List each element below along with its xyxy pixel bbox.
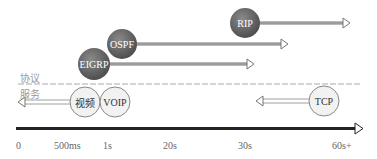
timeout-diagram: 协议 服务 RIP OSPF EIGRP 视频 VOIP TCP 0 500ms…	[0, 0, 377, 159]
ospf-label: OSPF	[110, 39, 134, 50]
eigrp-label: EIGRP	[80, 59, 109, 70]
tick-30s: 30s	[238, 140, 252, 151]
tcp-timer-arrow	[256, 96, 310, 106]
video-label: 视频	[75, 95, 95, 110]
tick-60s-plus: 60s+	[332, 140, 352, 151]
protocol-layer-label: 协议	[20, 70, 40, 85]
rip-timer-arrow	[258, 18, 350, 28]
service-layer-label: 服务	[20, 86, 40, 101]
tick-500ms: 500ms	[54, 140, 81, 151]
ospf-timer-arrow	[135, 39, 288, 49]
tick-20s: 20s	[163, 140, 177, 151]
rip-label: RIP	[237, 18, 253, 29]
tick-0: 0	[16, 140, 21, 151]
tick-1s: 1s	[103, 140, 112, 151]
eigrp-timer-arrow	[107, 59, 254, 69]
time-axis	[16, 123, 363, 134]
voip-label: VOIP	[103, 97, 126, 108]
tcp-label: TCP	[315, 96, 333, 107]
